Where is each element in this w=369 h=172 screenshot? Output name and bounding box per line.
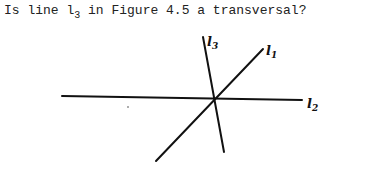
line-l1 [156,49,263,161]
label-l2: l2 [307,96,318,113]
figure-4-5: l3 l1 l2 [0,0,369,172]
stray-dot [127,106,129,108]
label-l3: l3 [207,34,218,51]
label-l1: l1 [266,43,277,60]
line-l2 [62,96,302,100]
